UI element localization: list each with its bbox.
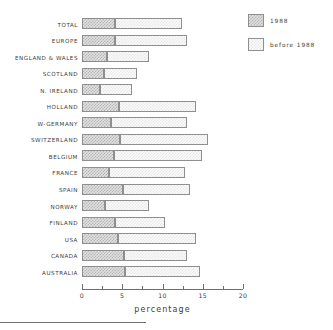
- bar-segment-recent: [82, 250, 124, 261]
- category-label: AUSTRALIA: [0, 268, 78, 279]
- legend-swatch-1988: [248, 14, 264, 27]
- bar-segment-recent: [82, 68, 104, 79]
- category-label: ENGLAND & WALES: [0, 53, 78, 64]
- category-label: CANADA: [0, 251, 78, 262]
- x-tick-label: 15: [198, 292, 207, 299]
- bar-segment-recent: [82, 200, 105, 211]
- bar-segment-recent: [82, 167, 109, 178]
- bar-segment-older: [115, 35, 187, 46]
- bar-segment-older: [104, 68, 137, 79]
- bar-segment-recent: [82, 184, 123, 195]
- x-tick-label: 0: [80, 292, 84, 299]
- bar-segment-older: [123, 184, 190, 195]
- category-label: W-GERMANY: [0, 119, 78, 130]
- bar-segment-older: [100, 84, 132, 95]
- x-tick-label: 20: [239, 292, 248, 299]
- category-label: BELGIUM: [0, 152, 78, 163]
- category-label: HOLLAND: [0, 102, 78, 113]
- bar-segment-recent: [82, 233, 118, 244]
- bar-segment-older: [115, 217, 165, 228]
- x-tick-minor: [183, 286, 184, 289]
- category-label: SPAIN: [0, 185, 78, 196]
- bar-segment-recent: [82, 134, 120, 145]
- category-label: TOTAL: [0, 20, 78, 31]
- bar-segment-older: [111, 117, 187, 128]
- x-axis-line: [82, 289, 243, 290]
- category-label: SCOTLAND: [0, 69, 78, 80]
- bar-segment-older: [124, 250, 187, 261]
- x-tick-minor: [102, 286, 103, 289]
- bar-segment-older: [120, 134, 209, 145]
- footer-rule: [0, 322, 146, 323]
- category-label: FINLAND: [0, 218, 78, 229]
- x-tick-major: [163, 284, 164, 290]
- bar-segment-recent: [82, 101, 119, 112]
- bar-segment-older: [115, 18, 182, 29]
- category-label: USA: [0, 235, 78, 246]
- category-label: FRANCE: [0, 168, 78, 179]
- bar-segment-recent: [82, 217, 115, 228]
- category-label: NORWAY: [0, 202, 78, 213]
- legend-label-1988: 1988: [270, 18, 288, 24]
- x-tick-major: [243, 284, 244, 290]
- bar-segment-older: [118, 233, 196, 244]
- bar-segment-recent: [82, 18, 115, 29]
- bar-segment-recent: [82, 51, 107, 62]
- bar-segment-older: [119, 101, 196, 112]
- stacked-bar-chart: TOTALEUROPEENGLAND & WALESSCOTLANDN. IRE…: [0, 0, 333, 330]
- legend-label-before-1988: before 1988: [270, 42, 315, 48]
- bar-segment-recent: [82, 84, 100, 95]
- bar-segment-recent: [82, 35, 115, 46]
- category-label: N. IRELAND: [0, 86, 78, 97]
- bar-segment-older: [109, 167, 185, 178]
- legend-swatch-before-1988: [248, 38, 264, 51]
- bar-segment-recent: [82, 266, 125, 277]
- x-tick-minor: [223, 286, 224, 289]
- x-tick-label: 10: [158, 292, 167, 299]
- bar-segment-older: [107, 51, 149, 62]
- bar-segment-recent: [82, 117, 111, 128]
- x-tick-label: 5: [120, 292, 124, 299]
- x-tick-major: [122, 284, 123, 290]
- bar-segment-recent: [82, 150, 114, 161]
- x-tick-major: [203, 284, 204, 290]
- bar-segment-older: [105, 200, 148, 211]
- bar-segment-older: [125, 266, 200, 277]
- category-label: SWITZERLAND: [0, 135, 78, 146]
- x-axis-title: percentage: [82, 305, 243, 314]
- bar-segment-older: [114, 150, 202, 161]
- category-label: EUROPE: [0, 36, 78, 47]
- x-tick-major: [82, 284, 83, 290]
- x-tick-minor: [142, 286, 143, 289]
